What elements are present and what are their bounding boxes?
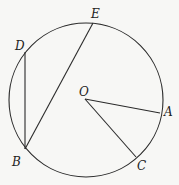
circle-diagram: E D B O A C — [0, 0, 179, 185]
radius-OA — [85, 99, 160, 113]
radius-OC — [85, 99, 136, 157]
point-labels: E D B O A C — [11, 7, 173, 173]
label-D: D — [14, 39, 25, 53]
label-A: A — [163, 105, 173, 119]
label-B: B — [11, 155, 21, 169]
segments — [25, 23, 160, 157]
label-O: O — [79, 85, 89, 99]
label-E: E — [90, 7, 100, 21]
label-C: C — [137, 159, 146, 173]
